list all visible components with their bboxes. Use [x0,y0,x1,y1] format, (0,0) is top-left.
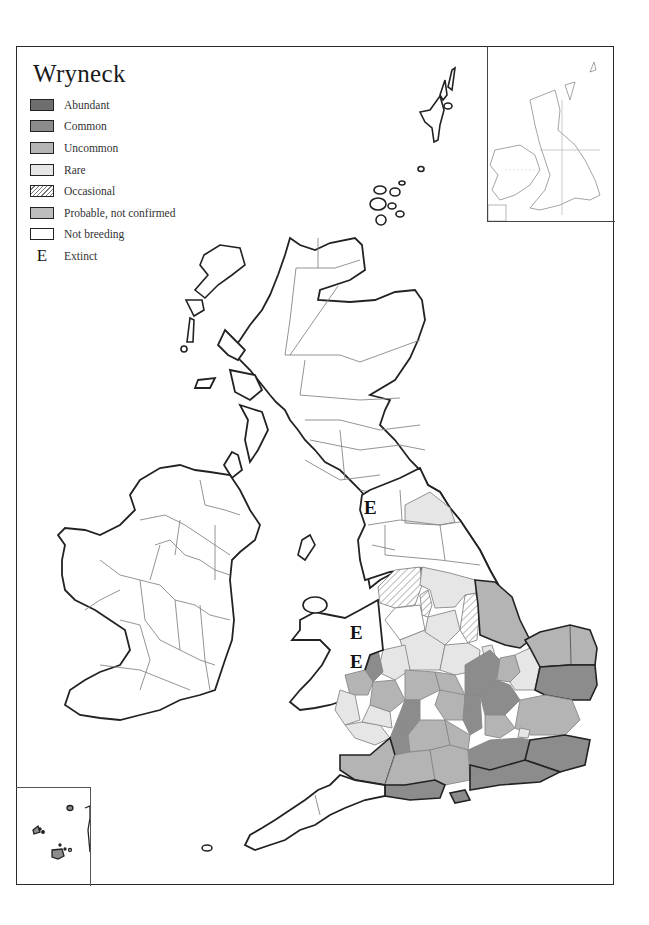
legend-item-common: Common [30,116,175,138]
legend: Wryneck Abundant Common Uncommon Rare Oc… [30,60,175,267]
county-uncommon-hants [430,745,470,785]
county-rare-london [518,728,530,738]
legend-item-uncommon: Uncommon [30,137,175,159]
county-uncommon-worcs [405,670,440,700]
legend-item-extinct: E Extinct [30,245,175,267]
extinct-marker-cumbria: E [364,497,377,519]
isle-of-man [298,535,315,560]
swatch-abundant [30,99,54,111]
extinct-marker-north-wales: E [350,622,363,644]
orkney-islands [370,181,405,225]
legend-item-occasional: Occasional [30,180,175,202]
county-uncommon-oxford [435,690,465,720]
swatch-probable [30,207,54,219]
legend-item-abundant: Abundant [30,94,175,116]
outer-hebrides [181,245,245,352]
swatch-rare [30,164,54,176]
map-title: Wryneck [33,60,175,88]
legend-item-probable: Probable, not confirmed [30,202,175,224]
swatch-uncommon [30,142,54,154]
swatch-common [30,120,54,132]
ireland [58,465,260,720]
shetland-islands [418,68,455,172]
extinct-symbol: E [30,250,54,262]
county-common-isle-of-wight [450,790,470,803]
channel-islands-inset-box [16,787,91,886]
county-uncommon-herts [485,715,515,738]
county-common-bucks [463,695,482,735]
overview-inset-box [487,46,615,222]
swatch-occasional [30,185,54,197]
county-uncommon-lincolnshire [475,580,530,648]
legend-item-not-breeding: Not breeding [30,224,175,246]
extinct-marker-mid-wales: E [350,651,363,673]
devon-cornwall [245,775,385,850]
legend-item-rare: Rare [30,159,175,181]
swatch-not-breeding [30,228,54,240]
england-wales [202,468,597,851]
county-uncommon-norfolk [525,625,597,667]
